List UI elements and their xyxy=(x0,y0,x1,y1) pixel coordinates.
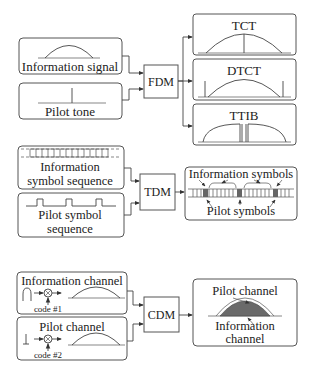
multiplexing-diagram: Information signal Pilot tone FDM TCT xyxy=(0,0,317,380)
information-symbols-label: Information symbols xyxy=(189,167,294,181)
pilot-symbol-marker xyxy=(273,189,278,197)
tdm-output-box: Information symbols Pilot symbols xyxy=(185,167,297,220)
pilot-symbol-marker xyxy=(203,189,208,197)
pilot-tone-box: Pilot tone xyxy=(19,83,122,119)
information-signal-box: Information signal xyxy=(19,38,122,74)
ttib-box: TTIB xyxy=(193,104,296,145)
fdm-section: Information signal Pilot tone FDM TCT xyxy=(19,14,296,145)
pilot-channel-output-label: Pilot channel xyxy=(212,284,278,298)
fdm-block: FDM xyxy=(144,65,178,98)
ttib-label: TTIB xyxy=(230,108,259,123)
tdm-block: TDM xyxy=(140,174,175,210)
information-channel-output-label-line2: channel xyxy=(226,332,265,346)
information-symbol-sequence-box: Information symbol sequence xyxy=(18,146,124,189)
cdm-label: CDM xyxy=(148,308,176,322)
pilot-channel-label: Pilot channel xyxy=(39,320,105,334)
tdm-label: TDM xyxy=(144,185,171,199)
pilot-symbol-marker xyxy=(237,189,242,197)
information-symbol-label-line1: Information xyxy=(40,160,100,174)
tct-box: TCT xyxy=(193,14,296,55)
pilot-channel-box: Pilot channel code #2 xyxy=(17,317,127,360)
cdm-block: CDM xyxy=(144,297,179,332)
cdm-output-box: Pilot channel Information channel xyxy=(193,279,297,346)
dtct-label: DTCT xyxy=(227,63,261,78)
cdm-section: Information channel code #1 Pilot channe… xyxy=(17,272,297,360)
information-channel-label: Information channel xyxy=(21,274,123,288)
pilot-symbol-sequence-box: Pilot symbol sequence xyxy=(18,193,124,237)
tct-label: TCT xyxy=(232,18,257,33)
pilot-symbol-label-line2: sequence xyxy=(47,222,93,236)
code-2-label: code #2 xyxy=(34,350,62,360)
information-channel-output-label-line1: Information xyxy=(215,319,275,333)
pilot-symbols-label: Pilot symbols xyxy=(207,204,276,218)
information-channel-box: Information channel code #1 xyxy=(17,272,127,314)
pilot-tone-label: Pilot tone xyxy=(45,104,95,119)
pilot-symbol-label-line1: Pilot symbol xyxy=(38,208,102,222)
tdm-section: Information symbol sequence Pilot symbol… xyxy=(18,146,297,237)
dtct-box: DTCT xyxy=(193,59,296,100)
information-signal-label: Information signal xyxy=(22,59,119,74)
code-1-label: code #1 xyxy=(34,304,62,314)
fdm-label: FDM xyxy=(148,75,174,89)
information-symbol-label-line2: symbol sequence xyxy=(27,174,113,188)
